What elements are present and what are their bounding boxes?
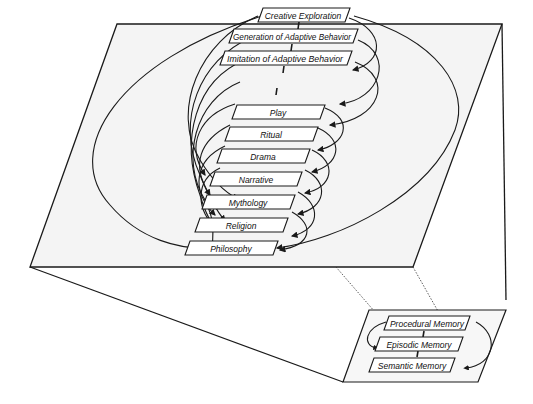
svg-text:Philosophy: Philosophy: [210, 244, 252, 254]
svg-text:Narrative: Narrative: [239, 175, 274, 185]
level-philosophy: Philosophy: [185, 241, 278, 255]
level-narrative: Narrative: [210, 172, 302, 186]
svg-text:Imitation of Adaptive Behavior: Imitation of Adaptive Behavior: [227, 54, 344, 64]
svg-text:Drama: Drama: [250, 152, 276, 162]
svg-text:Episodic Memory: Episodic Memory: [386, 340, 452, 350]
level-religion: Religion: [195, 218, 288, 232]
memory-episodic: Episodic Memory: [375, 337, 463, 351]
svg-text:Religion: Religion: [226, 221, 257, 231]
svg-text:Procedural Memory: Procedural Memory: [390, 319, 465, 329]
svg-text:Creative Exploration: Creative Exploration: [265, 11, 342, 21]
level-drama: Drama: [217, 149, 310, 163]
level-generation-of-adaptive-behavior: Generation of Adaptive Behavior: [229, 29, 358, 43]
svg-text:Mythology: Mythology: [229, 198, 268, 208]
projection-dotted-left: [336, 267, 375, 312]
level-imitation-of-adaptive-behavior: Imitation of Adaptive Behavior: [220, 51, 352, 65]
svg-text:Semantic Memory: Semantic Memory: [378, 361, 447, 371]
memory-procedural: Procedural Memory: [384, 316, 470, 330]
level-creative-exploration: Creative Exploration: [258, 8, 350, 22]
plane-right-edge: [502, 24, 506, 300]
diagram-canvas: Creative Exploration Generation of Adapt…: [0, 0, 533, 404]
level-play: Play: [232, 105, 325, 119]
svg-text:Generation of Adaptive Behavio: Generation of Adaptive Behavior: [233, 32, 352, 42]
memory-semantic: Semantic Memory: [369, 358, 455, 372]
projection-edge: [30, 267, 343, 382]
svg-text:Play: Play: [270, 108, 287, 118]
svg-text:Ritual: Ritual: [260, 130, 283, 140]
level-mythology: Mythology: [202, 195, 295, 209]
level-ritual: Ritual: [225, 127, 318, 141]
